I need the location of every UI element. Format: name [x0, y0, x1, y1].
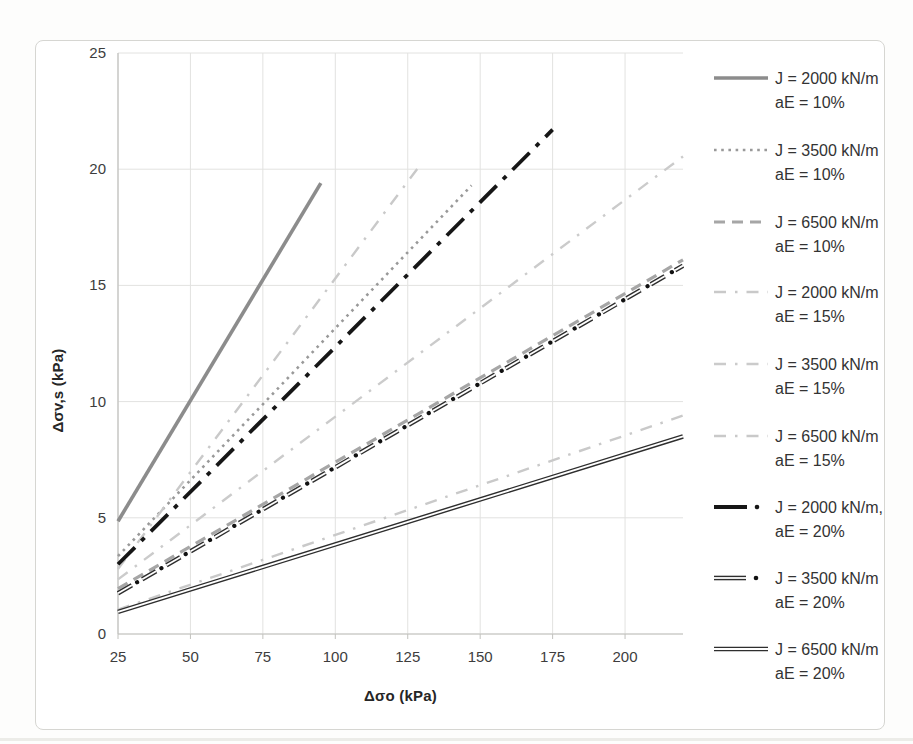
- legend-label-line1: J = 3500 kN/m: [775, 570, 879, 587]
- scanned-chart-page: 0510152025255075100125150175200J = 2000 …: [0, 0, 913, 744]
- legend-label-line2: aE = 15%: [775, 308, 845, 325]
- series-line-J6500-aE20-core: [118, 436, 683, 611]
- legend-label-line2: aE = 20%: [775, 523, 845, 540]
- x-tick-label: 200: [613, 648, 638, 665]
- legend-label-line1: J = 2000 kN/m,: [775, 499, 883, 516]
- legend-label-line1: J = 6500 kN/m: [775, 641, 879, 658]
- x-tick-label: 75: [255, 648, 272, 665]
- y-tick-label: 0: [98, 625, 106, 642]
- y-tick-label: 15: [89, 276, 106, 293]
- chart-canvas: 0510152025255075100125150175200J = 2000 …: [0, 0, 913, 744]
- legend-label-line1: J = 2000 kN/m: [775, 284, 879, 301]
- legend-label-line1: J = 6500 kN/m: [775, 428, 879, 445]
- x-tick-label: 125: [395, 648, 420, 665]
- legend-label-line1: J = 2000 kN/m: [775, 70, 879, 87]
- legend-label-line2: aE = 15%: [775, 380, 845, 397]
- y-tick-label: 5: [98, 509, 106, 526]
- x-tick-label: 150: [468, 648, 493, 665]
- series-line-J6500-aE10: [118, 260, 683, 589]
- x-tick-label: 25: [110, 648, 127, 665]
- legend-swatch-J2000-aE20-dot: [755, 505, 760, 510]
- y-tick-label: 10: [89, 393, 106, 410]
- legend-swatch-J3500-aE20-dot: [754, 576, 759, 581]
- scan-edge-artifact: [0, 738, 913, 741]
- series-line-J2000-aE15: [118, 162, 422, 569]
- series-line-J6500-aE15: [118, 416, 683, 610]
- legend-label-line1: J = 3500 kN/m: [775, 356, 879, 373]
- legend-label-line2: aE = 15%: [775, 452, 845, 469]
- legend-label-line2: aE = 10%: [775, 94, 845, 111]
- series-line-J2000-aE10: [118, 183, 321, 521]
- legend-label-line1: J = 3500 kN/m: [775, 142, 879, 159]
- series-line-J3500-aE15: [118, 156, 683, 579]
- legend-label-line2: aE = 10%: [775, 166, 845, 183]
- legend-label-line2: aE = 10%: [775, 238, 845, 255]
- series-line-J3500-aE10: [118, 185, 471, 556]
- x-tick-label: 50: [182, 648, 199, 665]
- x-tick-label: 100: [323, 648, 348, 665]
- x-tick-label: 175: [540, 648, 565, 665]
- x-axis-title: Δσo (kPa): [300, 687, 501, 704]
- legend-label-line2: aE = 20%: [775, 665, 845, 682]
- y-axis-title: Δσv,s (kPa): [49, 291, 70, 491]
- legend-label-line2: aE = 20%: [775, 594, 845, 611]
- legend-label-line1: J = 6500 kN/m: [775, 214, 879, 231]
- y-tick-label: 25: [89, 44, 106, 61]
- y-tick-label: 20: [89, 160, 106, 177]
